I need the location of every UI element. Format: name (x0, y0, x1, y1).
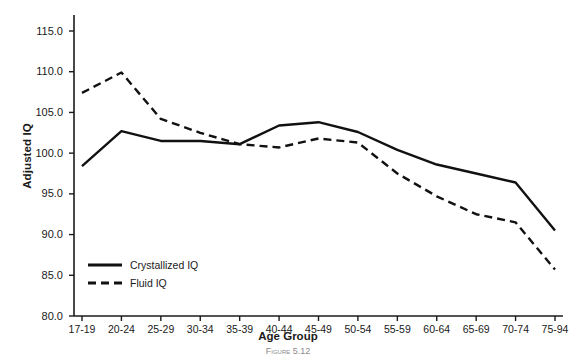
legend-label-fluid-iq: Fluid IQ (130, 277, 167, 289)
y-axis-tick-label: 80.0 (17, 311, 63, 322)
figure-caption: Figure 5.12 (0, 346, 576, 356)
y-axis-tick-label: 85.0 (17, 270, 63, 281)
legend-label-crystallized-iq: Crystallized IQ (130, 259, 198, 271)
figure-container: Adjusted IQ Age Group 80.085.090.095.010… (0, 0, 576, 361)
line-chart-canvas (0, 0, 576, 361)
y-axis-tick-label: 100.0 (17, 148, 63, 159)
y-axis-tick-label: 110.0 (17, 66, 63, 77)
y-axis-tick-label: 95.0 (17, 188, 63, 199)
series-line-fluid-iq (82, 73, 555, 270)
y-axis-tick-label: 105.0 (17, 107, 63, 118)
y-axis-tick-label: 115.0 (17, 26, 63, 37)
x-axis-tick-label: 75-94 (531, 324, 576, 335)
y-axis-tick-label: 90.0 (17, 229, 63, 240)
series-line-crystallized-iq (82, 122, 555, 230)
